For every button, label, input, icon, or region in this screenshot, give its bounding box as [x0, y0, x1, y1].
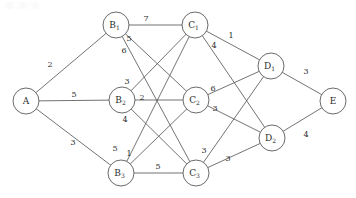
edge-weight-b2-c3: 4 [122, 115, 127, 124]
diagram-canvas: AB1B2B3C1C2C3D1D2E 25375632451514633334 [0, 0, 356, 198]
node-d1[interactable]: D1 [258, 53, 284, 79]
edge-weight-a-b2: 5 [71, 90, 76, 99]
edge-weight-c2-d2: 3 [212, 104, 217, 113]
node-b1[interactable]: B1 [103, 12, 129, 38]
edge-a-b2 [39, 100, 109, 101]
node-label-a: A [22, 96, 30, 106]
edge-c3-d2 [208, 143, 260, 167]
edge-weight-b3-c3: 5 [155, 162, 160, 171]
edge-weight-b1-c1: 7 [143, 14, 148, 23]
network-graph: AB1B2B3C1C2C3D1D2E 25375632451514633334 [0, 0, 356, 198]
edge-weight-c1-d2: 4 [211, 41, 216, 50]
edge-d1-e [282, 72, 321, 94]
edge-d2-e [283, 108, 322, 132]
edge-weight-c3-d1: 3 [201, 146, 206, 155]
edge-weight-c3-d2: 3 [225, 154, 230, 163]
node-label-e: E [330, 96, 337, 106]
node-e[interactable]: E [320, 88, 346, 114]
node-b3[interactable]: B3 [108, 160, 134, 186]
node-a[interactable]: A [13, 88, 39, 114]
edge-weight-b1-c3: 6 [121, 46, 126, 55]
node-c3[interactable]: C3 [183, 160, 209, 186]
edge-weight-b1-c2: 5 [126, 34, 131, 43]
edge-weight-d1-e: 3 [303, 67, 308, 76]
edge-weight-c1-d1: 1 [228, 31, 233, 40]
edge-b2-c1 [131, 34, 186, 90]
edge-weight-a-b1: 2 [47, 60, 52, 69]
edge-a-b1 [36, 33, 106, 92]
edge-weight-b3-c2: 1 [126, 149, 131, 158]
edge-weight-a-b3: 3 [70, 138, 75, 147]
edge-weight-c2-d1: 6 [210, 84, 215, 93]
edge-weight-d2-e: 4 [303, 130, 308, 139]
node-b2[interactable]: B2 [109, 87, 135, 113]
node-d2[interactable]: D2 [259, 125, 285, 151]
nodes-layer: AB1B2B3C1C2C3D1D2E [13, 12, 346, 186]
node-c2[interactable]: C2 [183, 87, 209, 113]
edge-b1-c2 [125, 34, 186, 91]
edges-layer [36, 25, 322, 173]
node-c1[interactable]: C1 [182, 12, 208, 38]
edge-weight-b2-c2: 2 [139, 93, 144, 102]
edge-weight-b2-c1: 3 [124, 77, 129, 86]
edge-weight-b3-c1: 5 [112, 144, 117, 153]
